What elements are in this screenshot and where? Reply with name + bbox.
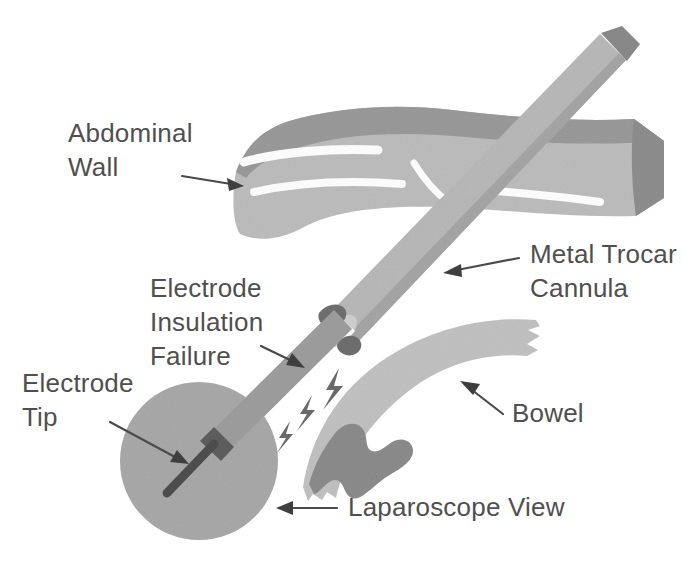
- arrow-bowel: [460, 381, 503, 414]
- label-laparoscope-view: Laparoscope View: [348, 492, 565, 522]
- label-electrode-insulation-failure-line-1: Electrode: [150, 273, 262, 303]
- label-metal-trocar-cannula-line-2: Cannula: [530, 273, 629, 303]
- spark-icon-small: [277, 421, 293, 453]
- label-abdominal-wall: Abdominal Wall: [68, 118, 200, 182]
- label-electrode-tip-line-1: Electrode: [22, 368, 134, 398]
- label-abdominal-wall-line-2: Wall: [68, 152, 118, 182]
- arrow-laparoscope-view: [276, 501, 337, 515]
- label-bowel: Bowel: [512, 398, 584, 428]
- label-abdominal-wall-line-1: Abdominal: [68, 118, 193, 148]
- abdominal-wall-cut-face: [632, 119, 664, 216]
- label-metal-trocar-cannula-line-1: Metal Trocar: [530, 239, 677, 269]
- label-electrode-tip: Electrode Tip: [22, 368, 141, 432]
- arrow-abdominal-wall: [182, 176, 244, 191]
- label-bowel-line-1: Bowel: [512, 398, 584, 428]
- spark-icon-medium: [297, 395, 315, 431]
- label-electrode-insulation-failure: Electrode Insulation Failure: [150, 273, 271, 371]
- illustration-canvas: Abdominal Wall Metal Trocar Cannula Elec…: [0, 0, 686, 573]
- label-electrode-tip-line-2: Tip: [22, 402, 58, 432]
- label-electrode-insulation-failure-line-2: Insulation: [150, 307, 263, 337]
- label-metal-trocar-cannula: Metal Trocar Cannula: [530, 239, 684, 303]
- label-electrode-insulation-failure-line-3: Failure: [150, 341, 231, 371]
- arrow-metal-trocar-cannula: [443, 258, 519, 277]
- medical-illustration-figure: Abdominal Wall Metal Trocar Cannula Elec…: [0, 0, 686, 573]
- label-laparoscope-view-line-1: Laparoscope View: [348, 492, 565, 522]
